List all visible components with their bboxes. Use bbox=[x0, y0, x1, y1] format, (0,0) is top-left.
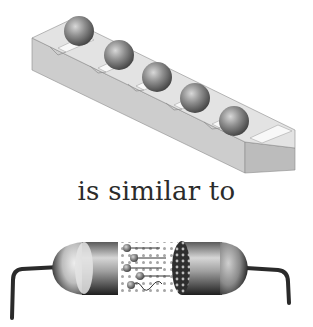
ball-3 bbox=[142, 62, 172, 92]
ball-1 bbox=[64, 16, 94, 46]
ball-5 bbox=[219, 106, 249, 136]
analogy-figure bbox=[0, 0, 313, 327]
caption-text: is similar to bbox=[0, 176, 313, 206]
left-lead bbox=[12, 267, 60, 318]
ball-2 bbox=[104, 40, 134, 70]
right-lead bbox=[246, 268, 289, 303]
ball-4 bbox=[180, 83, 210, 113]
resistor bbox=[12, 241, 289, 318]
